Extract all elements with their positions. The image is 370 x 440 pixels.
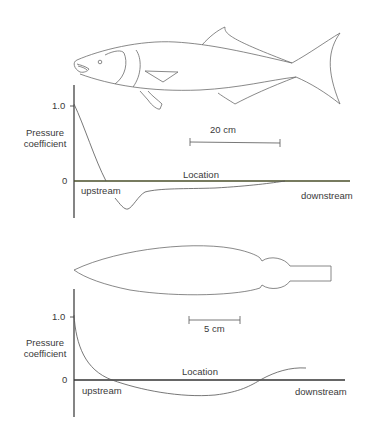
top-tick-1: 1.0 xyxy=(52,100,65,111)
bottom-y-label-line2: coefficient xyxy=(20,348,70,359)
bottom-x-axis-label: Location xyxy=(182,366,218,377)
top-downstream-label: downstream xyxy=(301,190,353,201)
bottom-y-label-line1: Pressure xyxy=(20,337,70,348)
bottom-tick-1: 1.0 xyxy=(52,311,65,322)
top-upstream-label: upstream xyxy=(81,185,121,196)
bottom-upstream-label: upstream xyxy=(82,385,122,396)
bottom-plot-axes xyxy=(70,289,345,417)
bottom-y-axis-label: Pressure coefficient xyxy=(20,337,70,359)
scale-label-top: 20 cm xyxy=(210,124,236,135)
top-y-label-line2: coefficient xyxy=(20,138,70,149)
streamlined-body-outline xyxy=(74,246,331,295)
top-tick-0: 0 xyxy=(62,175,67,186)
bottom-tick-0: 0 xyxy=(62,374,67,385)
scale-bar-20cm xyxy=(190,138,280,147)
bottom-downstream-label: downstream xyxy=(295,386,347,397)
bottom-pressure-curve xyxy=(74,315,306,396)
top-y-label-line1: Pressure xyxy=(20,127,70,138)
scale-label-bottom: 5 cm xyxy=(204,323,225,334)
top-y-axis-label: Pressure coefficient xyxy=(20,127,70,149)
fish-outline xyxy=(74,27,340,109)
top-x-axis-label: Location xyxy=(183,169,219,180)
